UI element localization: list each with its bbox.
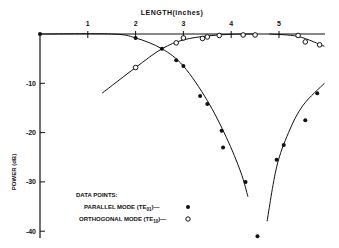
- y-tick-label: -10: [26, 80, 36, 87]
- parallel-data-point: [255, 234, 259, 238]
- parallel-data-point: [134, 36, 138, 40]
- open-circle-marker-icon: [186, 217, 190, 221]
- orthogonal-data-point: [317, 43, 322, 48]
- legend-parallel: PARALLEL MODE (TE01)—: [84, 204, 159, 212]
- y-axis: -10-20-30-40: [26, 34, 45, 238]
- orthogonal-data-point: [133, 65, 138, 70]
- orthogonal-data-point: [217, 33, 222, 38]
- parallel-data-point: [38, 32, 42, 36]
- orthogonal-data-point: [181, 36, 186, 41]
- x-tick-label: 4: [229, 20, 233, 27]
- parallel-data-point: [244, 180, 248, 184]
- filled-circle-marker-icon: [186, 205, 190, 209]
- parallel-data-point: [205, 102, 209, 106]
- parallel-data-point: [160, 47, 164, 51]
- parallel-data-point: [315, 91, 319, 95]
- parallel-data-point: [221, 145, 225, 149]
- orthogonal-data-point: [205, 35, 210, 40]
- x-tick-label: 5: [277, 20, 281, 27]
- legend: DATA POINTS: PARALLEL MODE (TE01)— ORTHO…: [76, 192, 190, 224]
- parallel-data-point: [220, 129, 224, 133]
- parallel-data-point: [198, 94, 202, 98]
- legend-orthogonal: ORTHOGONAL MODE (TE10)—: [79, 216, 166, 224]
- fit-curve: [40, 34, 248, 197]
- y-tick-label: -20: [26, 129, 36, 136]
- fit-curve: [267, 83, 324, 221]
- parallel-data-point: [303, 118, 307, 122]
- x-tick-label: 1: [86, 20, 90, 27]
- parallel-data-point: [181, 64, 185, 68]
- y-tick-label: -40: [26, 228, 36, 235]
- orthogonal-data-point: [174, 41, 179, 46]
- orthogonal-data-point: [253, 33, 258, 38]
- y-axis-label: POWER (dB): [11, 154, 17, 190]
- parallel-data-point: [275, 158, 279, 162]
- x-axis-label: LENGTH(inches): [141, 9, 204, 17]
- x-tick-label: 2: [134, 20, 138, 27]
- y-tick-label: -30: [26, 178, 36, 185]
- legend-title: DATA POINTS:: [76, 192, 118, 198]
- orthogonal-data-point: [241, 33, 246, 38]
- orthogonal-data-point: [296, 33, 301, 38]
- chart: LENGTH(inches) 12345 -10-20-30-40 POWER …: [0, 0, 339, 248]
- x-tick-label: 3: [181, 20, 185, 27]
- orthogonal-data-point: [200, 36, 205, 41]
- parallel-data-point: [282, 143, 286, 147]
- orthogonal-data-point: [303, 40, 308, 45]
- parallel-data-point: [174, 58, 178, 62]
